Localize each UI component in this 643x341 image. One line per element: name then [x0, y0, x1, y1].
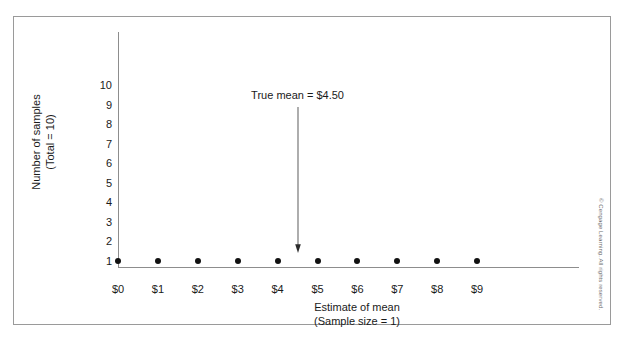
x-tick-label: $7 — [377, 283, 417, 295]
x-tick-label: $3 — [218, 283, 258, 295]
y-tick-label: 7 — [90, 139, 112, 150]
y-axis-title-line2: (Total = 10) — [43, 77, 57, 207]
x-axis-title-line1: Estimate of mean — [237, 300, 477, 314]
data-point — [195, 258, 201, 264]
y-tick-label: 5 — [90, 178, 112, 189]
data-point — [115, 258, 121, 264]
y-tick-label: 10 — [90, 80, 112, 91]
data-point — [235, 258, 241, 264]
figure-container: 10987654321 Number of samples (Total = 1… — [0, 0, 643, 341]
y-tick-label: 6 — [90, 158, 112, 169]
data-point — [275, 258, 281, 264]
x-axis-title-line2: (Sample size = 1) — [237, 314, 477, 328]
x-tick-label: $9 — [457, 283, 497, 295]
copyright-notice: © Cengage Learning. All rights reserved. — [598, 198, 604, 318]
true-mean-annotation-label: True mean = $4.50 — [251, 89, 344, 102]
y-tick-label: 4 — [90, 197, 112, 208]
x-tick-label: $2 — [178, 283, 218, 295]
y-tick-label: 9 — [90, 100, 112, 111]
x-tick-label: $6 — [337, 283, 377, 295]
x-tick-label: $4 — [258, 283, 298, 295]
x-axis-title: Estimate of mean (Sample size = 1) — [237, 300, 477, 328]
x-tick-label: $5 — [298, 283, 338, 295]
x-tick-label: $1 — [138, 283, 178, 295]
y-axis-line — [118, 32, 119, 267]
true-mean-arrow-icon — [293, 107, 303, 253]
y-tick-label: 1 — [90, 256, 112, 267]
y-axis-title: Number of samples (Total = 10) — [29, 77, 57, 207]
x-tick-label: $0 — [98, 283, 138, 295]
y-axis-title-line1: Number of samples — [29, 77, 43, 207]
data-point — [155, 258, 161, 264]
x-tick-label: $8 — [417, 283, 457, 295]
x-axis-line — [118, 267, 579, 268]
y-tick-label: 3 — [90, 217, 112, 228]
data-point — [315, 258, 321, 264]
y-tick-label: 2 — [90, 236, 112, 247]
x-axis-tick-labels: $0$1$2$3$4$5$6$7$8$9 — [0, 283, 643, 297]
y-tick-label: 8 — [90, 119, 112, 130]
